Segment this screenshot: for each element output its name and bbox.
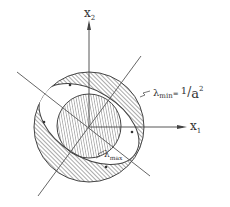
ellipse-point — [43, 121, 46, 124]
ellipse-point — [105, 166, 108, 169]
x1-axis-label: x1 — [190, 119, 201, 135]
lambda-min-leader — [140, 91, 150, 97]
ellipse-point — [131, 131, 134, 134]
x1-arrow-icon — [177, 125, 187, 129]
ellipse-point — [69, 84, 72, 87]
ellipse-bounds-diagram: x2 x1 λmin= 1/a2 λmax — [0, 0, 230, 207]
lambda-min-label: λmin= 1/a2 — [153, 85, 203, 101]
x2-axis-label: x2 — [84, 6, 95, 22]
